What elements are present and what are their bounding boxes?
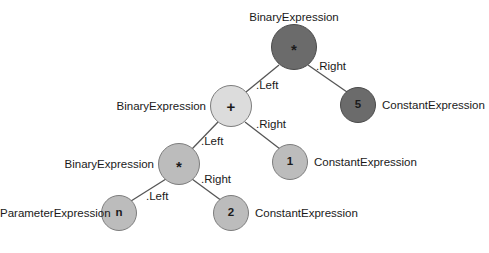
tree-node-constant-5: 5 — [340, 87, 376, 123]
edge-label: .Left — [146, 190, 168, 202]
node-symbol: * — [291, 42, 297, 57]
node-type-label: ConstantExpression — [314, 156, 417, 168]
node-symbol: n — [115, 207, 122, 219]
node-symbol: 2 — [228, 207, 234, 219]
tree-node-inner-multiply: * — [158, 143, 200, 185]
edge-label: .Right — [256, 118, 286, 130]
edge-label: .Right — [201, 173, 231, 185]
tree-node-root-multiply: * — [271, 24, 317, 70]
node-symbol: * — [176, 159, 182, 174]
tree-node-constant-2: 2 — [213, 195, 249, 231]
node-type-label: BinaryExpression — [0, 158, 154, 170]
node-symbol: 5 — [355, 99, 361, 111]
node-symbol: 1 — [287, 156, 293, 168]
node-type-label: ConstantExpression — [255, 207, 358, 219]
node-type-label: ConstantExpression — [382, 99, 485, 111]
edge-label: .Left — [201, 135, 223, 147]
tree-node-constant-1: 1 — [272, 144, 308, 180]
tree-node-plus: + — [210, 85, 252, 127]
node-type-label: BinaryExpression — [61, 11, 489, 23]
edge-label: .Right — [316, 60, 346, 72]
node-type-label: ParameterExpression — [0, 207, 95, 219]
node-type-label: BinaryExpression — [0, 100, 206, 112]
edge-label: .Left — [256, 79, 278, 91]
node-symbol: + — [227, 99, 236, 114]
